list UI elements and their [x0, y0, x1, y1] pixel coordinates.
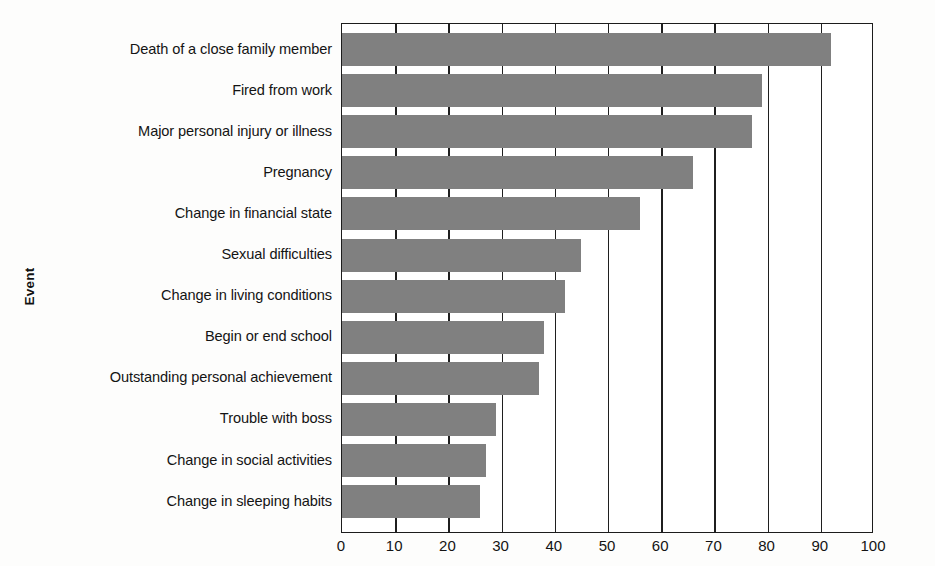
x-axis-tick-label: 100 — [860, 536, 885, 556]
bar-chart: Event Death of a close family memberFire… — [0, 0, 935, 566]
plot-area — [341, 23, 873, 533]
x-axis-tick-label: 10 — [386, 536, 403, 556]
x-axis-tick-label: 40 — [545, 536, 562, 556]
bar — [342, 74, 762, 107]
x-axis-tick-label: 90 — [811, 536, 828, 556]
category-label: Major personal injury or illness — [40, 123, 332, 139]
category-label: Pregnancy — [40, 164, 332, 180]
bar — [342, 444, 486, 477]
category-label: Outstanding personal achievement — [40, 369, 332, 385]
x-axis-tick-label: 0 — [337, 536, 345, 556]
bar — [342, 362, 539, 395]
bar — [342, 239, 581, 272]
category-label: Death of a close family member — [40, 41, 332, 57]
category-label: Trouble with boss — [40, 410, 332, 426]
category-label-column: Death of a close family memberFired from… — [40, 23, 332, 533]
bars-layer — [342, 24, 872, 532]
x-axis-tick-label: 80 — [758, 536, 775, 556]
bar — [342, 403, 496, 436]
y-axis-title-text: Event — [22, 267, 37, 305]
category-label: Change in financial state — [40, 205, 332, 221]
bar — [342, 33, 831, 66]
bar — [342, 321, 544, 354]
x-axis-tick-label: 20 — [439, 536, 456, 556]
category-label: Begin or end school — [40, 328, 332, 344]
x-axis-tick-label: 50 — [599, 536, 616, 556]
bar — [342, 280, 565, 313]
category-label: Fired from work — [40, 82, 332, 98]
bar — [342, 115, 752, 148]
category-label: Sexual difficulties — [40, 246, 332, 262]
bar — [342, 156, 693, 189]
bar — [342, 485, 480, 518]
bar — [342, 197, 640, 230]
category-label: Change in living conditions — [40, 287, 332, 303]
category-label: Change in social activities — [40, 452, 332, 468]
x-axis-tick-labels: 0102030405060708090100 — [341, 536, 873, 562]
x-axis-tick-label: 60 — [652, 536, 669, 556]
x-axis-tick-label: 30 — [492, 536, 509, 556]
category-label: Change in sleeping habits — [40, 493, 332, 509]
x-axis-tick-label: 70 — [705, 536, 722, 556]
